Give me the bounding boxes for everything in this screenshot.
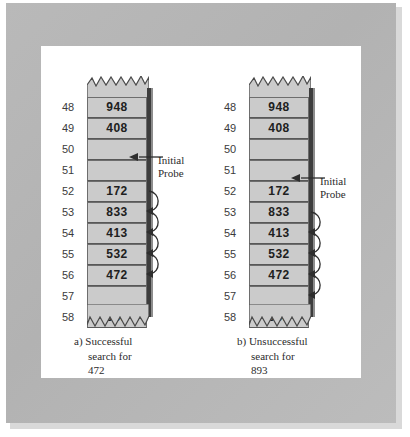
left-arrow-icon	[291, 174, 300, 182]
row-index: 58	[217, 307, 243, 328]
probe-arcs-a	[145, 97, 179, 327]
caption-line-3: 472	[74, 363, 132, 378]
row-value	[249, 139, 309, 160]
row-value: 948	[249, 97, 309, 118]
row-value: 472	[87, 265, 147, 286]
arrow-head-icon	[146, 228, 153, 236]
panel-caption-b: b) Unsuccessful search for 893	[237, 334, 308, 378]
row-index: 49	[217, 118, 243, 139]
probe-label-line2: Probe	[320, 188, 346, 200]
row-index: 52	[217, 181, 243, 202]
left-arrow-icon	[129, 153, 138, 161]
row-index: 48	[217, 97, 243, 118]
row-value: 532	[249, 244, 309, 265]
probe-arc	[311, 254, 320, 274]
torn-edge-bottom-icon	[249, 304, 311, 328]
row-index: 48	[55, 97, 81, 118]
probe-arc	[311, 233, 320, 253]
row-index: 56	[55, 265, 81, 286]
row-value: 472	[249, 265, 309, 286]
row-index: 57	[217, 286, 243, 307]
probe-arc	[311, 275, 320, 295]
row-index: 51	[55, 160, 81, 181]
row-value: 833	[249, 202, 309, 223]
panel-successful-search: 48 948 49 408 50 51	[41, 46, 201, 378]
caption-line-1: b) Unsuccessful	[237, 334, 308, 349]
row-value: 532	[87, 244, 147, 265]
arrow-head-icon	[146, 207, 153, 215]
row-index: 54	[217, 223, 243, 244]
row-index: 57	[55, 286, 81, 307]
row-value: 413	[87, 223, 147, 244]
probe-arc	[311, 212, 320, 232]
arrow-head-icon	[146, 270, 153, 278]
panel-unsuccessful-search: 48 948 49 408 50 51	[191, 46, 351, 378]
probe-arcs-b	[307, 97, 341, 327]
arrow-head-icon	[146, 249, 153, 257]
torn-edge-top-icon	[249, 76, 311, 99]
figure-root: 48 948 49 408 50 51	[0, 0, 410, 437]
hash-table-a: 48 948 49 408 50 51	[55, 76, 165, 331]
row-value: 413	[249, 223, 309, 244]
probe-arc	[149, 212, 158, 232]
probe-label-line2: Probe	[158, 167, 184, 179]
caption-line-1: a) Successful	[74, 334, 132, 349]
row-value: 833	[87, 202, 147, 223]
row-index: 54	[55, 223, 81, 244]
arrow-head-icon	[308, 270, 315, 278]
arrow-head-icon	[308, 249, 315, 257]
probe-arc	[149, 254, 158, 274]
panel-caption-a: a) Successful search for 472	[74, 334, 132, 378]
arrow-head-icon	[308, 228, 315, 236]
row-index: 58	[55, 307, 81, 328]
row-value: 172	[87, 181, 147, 202]
row-value: 408	[249, 118, 309, 139]
row-index: 51	[217, 160, 243, 181]
row-index: 53	[217, 202, 243, 223]
caption-line-2: search for	[74, 349, 132, 364]
probe-label-line1: Initial	[320, 175, 346, 187]
row-index: 52	[55, 181, 81, 202]
row-index: 53	[55, 202, 81, 223]
figure-canvas: 48 948 49 408 50 51	[41, 46, 361, 378]
torn-edge-bottom-icon	[87, 304, 149, 328]
row-value: 408	[87, 118, 147, 139]
row-value: 948	[87, 97, 147, 118]
row-index: 55	[55, 244, 81, 265]
hash-table-b: 48 948 49 408 50 51	[217, 76, 327, 331]
initial-probe-label-a: Initial Probe	[158, 154, 184, 180]
row-index: 50	[55, 139, 81, 160]
probe-label-line1: Initial	[158, 154, 184, 166]
torn-edge-top-icon	[87, 76, 149, 99]
row-index: 49	[55, 118, 81, 139]
probe-arc	[149, 233, 158, 253]
row-index: 50	[217, 139, 243, 160]
caption-line-2: search for	[237, 349, 308, 364]
row-index: 56	[217, 265, 243, 286]
caption-line-3: 893	[237, 363, 308, 378]
initial-probe-label-b: Initial Probe	[320, 175, 346, 201]
row-index: 55	[217, 244, 243, 265]
probe-arc	[149, 191, 158, 211]
arrow-head-icon	[308, 291, 315, 299]
